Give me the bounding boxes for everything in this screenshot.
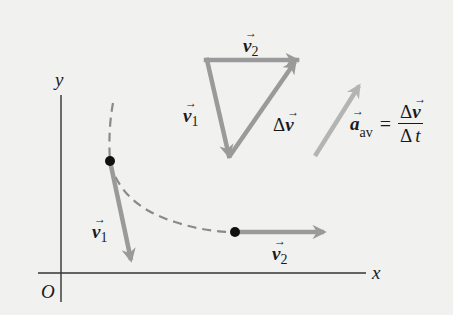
vector-arrow-glyph: → [287,106,299,118]
trajectory-path [109,103,235,232]
v1-label-triangle: →v1 [183,106,198,129]
v1-subscript: 1 [191,114,198,129]
v2-label-path: →v2 [272,244,287,267]
v1-symbol: →v [92,222,100,241]
delta-symbol: Δ [400,101,412,122]
delta-v-symbol: →v [285,115,293,134]
origin-label: O [41,282,55,301]
v1-label-path: →v1 [92,222,107,245]
v1-subscript: 1 [100,230,107,245]
t-letter: t [415,125,420,146]
point-p2 [230,227,240,237]
avg-acceleration-equation: →aav=Δ→vΔt [350,102,423,145]
delta-v-label: Δ→v [273,115,294,134]
vector-arrow-glyph: → [94,213,106,225]
fraction-denominator: Δt [400,124,421,145]
vector-arrow-glyph: → [185,97,197,109]
delta-symbol: Δ [400,125,412,146]
point-p1 [105,156,115,166]
y-axis-label: y [55,70,63,89]
triangle-delta-v-arrow [229,62,295,157]
vector-arrow-glyph: → [414,93,426,105]
triangle-v1-arrow [207,60,229,156]
v2-symbol: →v [243,36,251,55]
v-symbol: →v [412,102,420,121]
v1-symbol: →v [183,106,191,125]
fraction-numerator: Δ→v [398,102,423,124]
av-subscript: av [360,125,373,140]
velocity-v1-arrow [110,161,131,260]
diagram-canvas [0,0,453,315]
equals-sign: = [380,113,391,135]
a-symbol: →a [350,114,360,133]
delta-symbol: Δ [273,114,285,135]
v2-subscript: 2 [280,252,287,267]
v2-label-triangle: →v2 [243,36,258,59]
vector-arrow-glyph: → [352,105,364,117]
vector-arrow-glyph: → [274,235,286,247]
x-axis-label: x [372,263,380,282]
fraction: Δ→vΔt [398,102,423,145]
v2-symbol: →v [272,244,280,263]
vector-arrow-glyph: → [245,27,257,39]
v2-subscript: 2 [251,44,258,59]
